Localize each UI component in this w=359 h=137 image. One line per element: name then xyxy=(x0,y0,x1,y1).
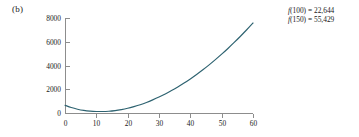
x-tick-label: 0 xyxy=(64,119,68,128)
annotation-value-1: 55,429 xyxy=(314,15,334,24)
annotation-arg-1: (150) xyxy=(290,15,306,24)
y-axis: 02000400060008000 xyxy=(46,14,69,118)
x-tick-label: 20 xyxy=(125,119,133,128)
y-tick-label: 6000 xyxy=(46,38,61,47)
x-tick-label: 30 xyxy=(156,119,164,128)
function-value-annotations: f(100) = 22,644 f(150) = 55,429 xyxy=(288,7,334,24)
x-tick-label: 10 xyxy=(93,119,101,128)
data-curve xyxy=(65,23,253,112)
x-axis: 0102030405060 xyxy=(64,114,258,128)
x-tick-label: 40 xyxy=(187,119,195,128)
data-series-group xyxy=(65,23,253,112)
y-tick-label: 0 xyxy=(57,109,61,118)
figure-panel-b: (b) f(100) = 22,644 f(150) = 55,429 0200… xyxy=(0,0,359,137)
panel-label: (b) xyxy=(12,4,23,14)
x-tick-label: 50 xyxy=(219,119,227,128)
x-tick-label: 60 xyxy=(250,119,258,128)
y-tick-label: 2000 xyxy=(46,85,61,94)
y-tick-label: 8000 xyxy=(46,14,61,23)
annotation-eq-1: = xyxy=(306,15,314,24)
annotation-line-1: f(150) = 55,429 xyxy=(288,16,334,25)
y-tick-label: 4000 xyxy=(46,62,61,71)
